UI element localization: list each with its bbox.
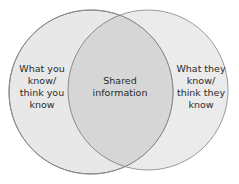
left-label: What you know/ think you know xyxy=(14,63,70,111)
left-label-line: know xyxy=(14,99,70,111)
right-label-line: know xyxy=(168,99,234,111)
left-label-line: What you xyxy=(14,63,70,75)
right-label: What they know/ think they know xyxy=(168,63,234,111)
center-label-line: Shared xyxy=(87,75,153,87)
left-label-line: think you xyxy=(14,87,70,99)
right-label-line: think they xyxy=(168,87,234,99)
center-label: Shared information xyxy=(87,75,153,99)
left-label-line: know/ xyxy=(14,75,70,87)
right-label-line: What they xyxy=(168,63,234,75)
center-label-line: information xyxy=(87,87,153,99)
right-label-line: know/ xyxy=(168,75,234,87)
